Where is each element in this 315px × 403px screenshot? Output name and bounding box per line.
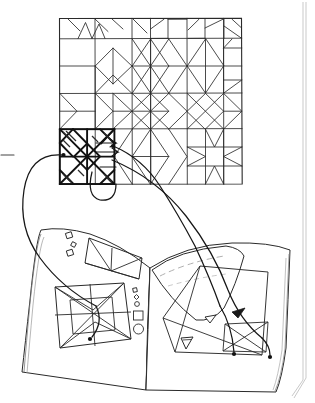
connector-left-target-dot [88, 337, 92, 341]
quilt-block-r2c1 [60, 93, 132, 129]
illustration-canvas: Quilt with highlighted block and open pa… [0, 0, 315, 403]
quilt-border-strip [68, 19, 242, 39]
book-left-page[interactable] [22, 229, 150, 390]
quilt-block-r1c2 [132, 39, 187, 93]
open-book[interactable] [22, 229, 290, 392]
quilt-block-r1c1 [60, 48, 132, 93]
quilt-block-r2c3 [187, 93, 242, 129]
connector-left-origin-dot [61, 153, 65, 157]
quilt-block-r1c3 [187, 39, 242, 93]
page-frame [292, 2, 306, 398]
quilt-block-r3c3-star [187, 129, 242, 184]
quilt-block-r2c2 [132, 93, 187, 129]
quilt-and-book-illustration [0, 0, 315, 403]
quilt-block-r3c2 [114, 129, 187, 184]
connector-loop [90, 172, 116, 200]
